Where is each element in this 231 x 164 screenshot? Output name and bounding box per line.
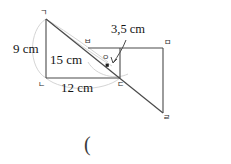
answer-prompt-paren: (: [84, 134, 91, 154]
measurement-hypotenuse: 15 cm: [50, 53, 82, 66]
vertex-label-o: ㅇ: [102, 54, 109, 62]
vertex-label-b: ㅂ: [84, 38, 91, 46]
measurement-segment: 3,5 cm: [111, 23, 145, 36]
vertex-label-n: ㄴ: [38, 81, 45, 89]
vertex-label-d: ㄷ: [117, 81, 124, 89]
vertex-label-r: ㄹ: [163, 114, 170, 122]
vertex-label-m: ㅁ: [164, 39, 171, 47]
perpendicular-foot-marker: [106, 64, 109, 67]
geometry-figure: ㄱ ㄴ ㄷ ㅁ ㄹ ㅂ ㅇ 9 cm 15 cm 12 cm 3,5 cm (: [0, 0, 231, 164]
vertex-label-g: ㄱ: [40, 9, 47, 17]
measurement-height: 9 cm: [13, 42, 39, 55]
measurement-base: 12 cm: [61, 81, 93, 94]
